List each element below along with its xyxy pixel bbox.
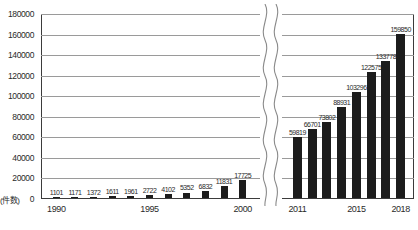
bar-value-label: 88931 bbox=[333, 99, 350, 106]
bar bbox=[322, 122, 331, 198]
bar bbox=[337, 107, 346, 198]
bar-value-label: 1171 bbox=[68, 189, 81, 196]
x-tick-label: 2015 bbox=[347, 204, 365, 214]
bar-value-label: 1611 bbox=[106, 188, 119, 195]
bar-value-label: 6832 bbox=[199, 183, 213, 190]
y-tick-label: 160000 bbox=[0, 30, 34, 40]
bar-value-label: 17725 bbox=[234, 172, 251, 179]
plot-area: 0200004000060000800001000001200001400001… bbox=[41, 14, 414, 199]
bar bbox=[165, 194, 172, 198]
bar-value-label: 4102 bbox=[161, 186, 175, 193]
x-tick-label: 2000 bbox=[233, 204, 251, 214]
bar bbox=[396, 34, 405, 198]
gridline bbox=[41, 35, 414, 36]
bar bbox=[53, 197, 60, 198]
y-tick-label: 100000 bbox=[0, 91, 34, 101]
bar bbox=[352, 92, 361, 198]
bar bbox=[221, 186, 228, 198]
plot-right-border bbox=[413, 14, 414, 199]
bar-value-label: 122575 bbox=[361, 64, 381, 71]
bar bbox=[109, 196, 116, 198]
x-tick-label: 2011 bbox=[288, 204, 306, 214]
y-tick-label: 60000 bbox=[0, 132, 34, 142]
y-tick-label: 120000 bbox=[0, 71, 34, 81]
bar bbox=[202, 191, 209, 198]
x-tick-label: 1990 bbox=[47, 204, 65, 214]
x-tick-label: 1995 bbox=[140, 204, 158, 214]
bar bbox=[381, 61, 390, 198]
y-tick-label: 180000 bbox=[0, 9, 34, 19]
gridline bbox=[41, 14, 414, 15]
bar-value-label: 2722 bbox=[143, 187, 157, 194]
bar-value-label: 73802 bbox=[318, 114, 335, 121]
bar-value-label: 11831 bbox=[216, 178, 232, 185]
bar bbox=[308, 129, 317, 198]
bar bbox=[293, 137, 302, 198]
y-tick-label: 20000 bbox=[0, 173, 34, 183]
bar-value-label: 66701 bbox=[304, 121, 321, 128]
y-axis-unit-label: (件数) bbox=[0, 194, 19, 205]
bar bbox=[71, 197, 78, 198]
bar-value-label: 1372 bbox=[87, 189, 101, 196]
bar-value-label: 103296 bbox=[346, 84, 366, 91]
y-tick-label: 80000 bbox=[0, 112, 34, 122]
bar bbox=[239, 180, 246, 198]
bar bbox=[90, 197, 97, 198]
y-tick-label: 140000 bbox=[0, 50, 34, 60]
bar bbox=[146, 195, 153, 198]
y-tick-label: 40000 bbox=[0, 153, 34, 163]
x-tick-label: 2018 bbox=[391, 204, 409, 214]
bar bbox=[367, 72, 376, 198]
bar bbox=[183, 193, 190, 199]
gridline bbox=[41, 55, 414, 56]
y-axis-line bbox=[41, 14, 42, 199]
bar-value-label: 59819 bbox=[289, 129, 306, 136]
bar-value-label: 159850 bbox=[390, 26, 410, 33]
bar-value-label: 1961 bbox=[124, 188, 138, 195]
bar-value-label: 1101 bbox=[50, 189, 63, 196]
x-axis-line bbox=[41, 198, 414, 199]
gridline bbox=[41, 76, 414, 77]
bar-chart: 0200004000060000800001000001200001400001… bbox=[0, 0, 418, 230]
bar bbox=[127, 196, 134, 198]
bar-value-label: 5352 bbox=[180, 184, 194, 191]
axis-break-squiggle bbox=[260, 4, 282, 206]
bar-value-label: 133778 bbox=[376, 53, 396, 60]
